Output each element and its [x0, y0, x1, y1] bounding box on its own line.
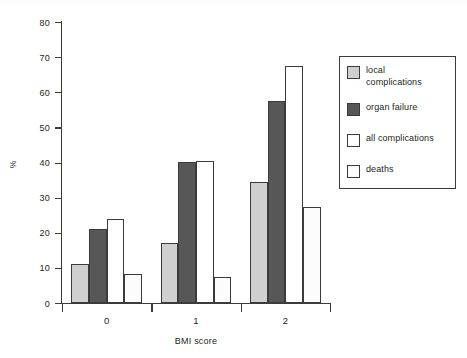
bar	[196, 161, 214, 303]
legend-label: organ failure	[366, 102, 417, 114]
y-axis-tick-label: 80	[40, 18, 50, 27]
y-axis-tick-label: 0	[45, 299, 50, 308]
legend-label: local complications	[366, 65, 422, 88]
chart-legend: local complicationsorgan failureall comp…	[339, 56, 456, 189]
bar	[214, 277, 232, 303]
legend-swatch-icon	[347, 134, 360, 147]
legend-item[interactable]: organ failure	[347, 102, 417, 116]
legend-label: all complications	[366, 133, 434, 145]
bar	[71, 264, 89, 303]
y-axis-tick: 70	[55, 57, 62, 58]
plot-area	[62, 22, 330, 303]
y-axis-tick: 60	[55, 92, 62, 93]
cropped-header-artifact	[0, 0, 467, 6]
y-axis-tick-label: 30	[40, 194, 50, 203]
y-axis-tick-label: 60	[40, 88, 50, 97]
legend-swatch-icon	[347, 165, 360, 178]
y-axis-tick: 30	[55, 198, 62, 199]
y-axis-tick: 20	[55, 233, 62, 234]
bar	[89, 229, 107, 303]
bar	[178, 162, 196, 303]
x-axis-group-label: 2	[283, 316, 288, 326]
bar	[268, 101, 286, 303]
y-axis-tick: 10	[55, 268, 62, 269]
x-axis-group-label: 1	[193, 316, 198, 326]
bar-chart-figure: % BMI score 01020304050607080 012 local …	[0, 0, 467, 358]
y-axis-tick-label: 40	[40, 159, 50, 168]
y-axis-tick: 40	[55, 163, 62, 164]
x-axis-title: BMI score	[175, 337, 217, 346]
x-axis-tick	[241, 304, 242, 312]
x-axis-group-label: 0	[104, 316, 109, 326]
legend-swatch-icon	[347, 103, 360, 116]
x-axis-tick	[151, 304, 152, 312]
bar	[303, 207, 321, 303]
legend-swatch-icon	[347, 66, 360, 79]
legend-item[interactable]: deaths	[347, 164, 394, 178]
bar	[250, 182, 268, 303]
legend-label: deaths	[366, 164, 394, 176]
bar	[161, 243, 179, 303]
bar	[124, 274, 142, 303]
y-axis-tick-label: 70	[40, 53, 50, 62]
y-axis-tick-label: 20	[40, 229, 50, 238]
bar	[107, 219, 125, 303]
y-axis-title: %	[9, 161, 18, 169]
legend-item[interactable]: all complications	[347, 133, 434, 147]
y-axis-tick: 0	[55, 303, 62, 304]
y-axis-tick-label: 50	[40, 123, 50, 132]
y-axis-tick: 80	[55, 22, 62, 23]
legend-item[interactable]: local complications	[347, 65, 422, 88]
y-axis-tick-label: 10	[40, 264, 50, 273]
x-axis-line	[61, 303, 331, 304]
x-axis-end-tick	[330, 304, 331, 312]
x-axis-end-tick	[62, 304, 63, 312]
bar	[285, 66, 303, 303]
y-axis-tick: 50	[55, 127, 62, 128]
